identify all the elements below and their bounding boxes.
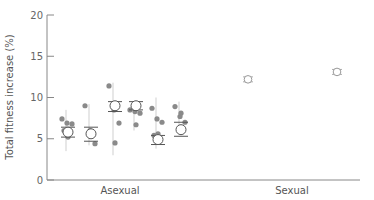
- mean-marker: [244, 76, 252, 84]
- replicate-dot: [112, 140, 117, 145]
- mean-marker: [86, 129, 96, 139]
- replicate-dot: [92, 141, 97, 146]
- replicate-dot: [69, 121, 74, 126]
- mean-marker: [110, 101, 120, 111]
- replicate-dot: [82, 103, 87, 108]
- mean-marker: [333, 68, 341, 76]
- mean-marker: [63, 127, 73, 137]
- chart: 05101520 Total fitness increase (%) Asex…: [0, 0, 374, 200]
- y-axis-label: Total fitness increase (%): [4, 34, 15, 161]
- replicate-dot: [178, 111, 183, 116]
- x-category-asexual: Asexual: [100, 185, 139, 196]
- replicate-dot: [106, 83, 111, 88]
- replicate-dot: [149, 106, 154, 111]
- replicate-dot: [59, 116, 64, 121]
- axes: 05101520: [30, 10, 360, 186]
- y-tick-label: 15: [30, 51, 43, 62]
- replicate-dot: [133, 122, 138, 127]
- replicate-dot: [116, 120, 121, 125]
- mean-marker: [131, 101, 141, 111]
- replicate-dot: [154, 116, 159, 121]
- y-tick-label: 0: [37, 175, 43, 186]
- replicate-dot: [159, 120, 164, 125]
- mean-marker: [176, 125, 186, 135]
- y-tick-label: 20: [30, 10, 43, 21]
- y-tick-label: 10: [30, 92, 43, 103]
- mean-marker: [153, 135, 163, 145]
- replicate-dot: [137, 111, 142, 116]
- plot-area: [59, 68, 342, 155]
- replicate-dot: [172, 104, 177, 109]
- x-category-sexual: Sexual: [275, 185, 309, 196]
- y-tick-label: 5: [37, 133, 43, 144]
- replicate-dot: [64, 120, 69, 125]
